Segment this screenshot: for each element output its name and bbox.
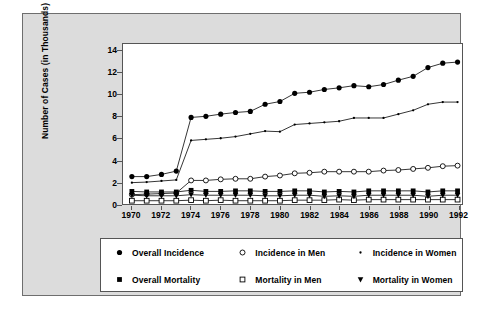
y-tick-label: 0 [95,201,117,209]
chart-page: Number of Cases (in Thousands) 024681012… [0,0,483,309]
data-point-open-square [248,198,253,203]
data-point-filled-circle [425,65,430,70]
legend-item[interactable]: Incidence in Men [233,247,350,258]
data-point-filled-circle [263,102,268,107]
legend-item[interactable]: Overall Incidence [101,247,233,258]
data-point-filled-square [322,190,327,195]
data-point-small-dot [264,130,266,132]
y-axis-tick-labels: 02468101214 [93,43,117,205]
data-point-small-dot [456,101,458,103]
x-axis-tick-labels: 1970197219741976197819801982198419861988… [122,210,463,224]
legend-label: Overall Mortality [132,275,200,285]
data-point-open-circle [425,165,430,170]
data-point-open-square [129,198,134,203]
chart-legend: Overall IncidenceIncidence in MenInciden… [100,238,463,292]
data-point-small-dot [294,123,296,125]
y-tick-label: 10 [95,90,117,98]
legend-label: Incidence in Men [255,248,325,258]
data-point-small-dot [190,139,192,141]
y-tick-label: 4 [95,157,117,165]
data-point-filled-square [144,190,149,195]
data-point-filled-circle [277,99,282,104]
data-point-filled-circle [129,174,134,179]
data-point-filled-square [307,188,312,193]
data-point-filled-square [117,277,122,282]
data-point-open-circle [248,176,253,181]
data-point-filled-circle [396,78,401,83]
data-point-small-dot [160,180,162,182]
legend-label: Incidence in Women [373,248,457,258]
x-tick-label: 1992 [439,210,479,220]
plot-area [122,43,463,205]
data-point-filled-circle [366,84,371,89]
legend-item[interactable]: Incidence in Women [351,247,462,258]
data-point-filled-square [159,190,164,195]
data-point-small-dot [131,181,133,183]
y-tick-label: 6 [95,134,117,142]
data-point-small-dot [205,138,207,140]
data-point-open-circle [411,166,416,171]
data-point-filled-square [381,188,386,193]
data-point-open-circle [455,163,460,168]
data-point-open-square [174,198,179,203]
data-point-filled-square [455,188,460,193]
data-point-open-circle [218,177,223,182]
data-point-open-square [218,198,223,203]
data-point-filled-square [278,189,283,194]
legend-item[interactable]: Mortality in Men [233,274,350,285]
data-point-open-square [240,277,245,282]
data-point-small-dot [353,117,355,119]
filled-square-icon [114,274,125,285]
data-point-open-square [204,198,209,203]
data-point-open-square [278,198,283,203]
data-point-small-dot [279,131,281,133]
y-tick-label: 2 [95,179,117,187]
data-point-filled-circle [322,87,327,92]
data-point-filled-circle [189,115,194,120]
data-point-open-square [159,198,164,203]
data-point-filled-square [292,188,297,193]
data-point-filled-circle [159,172,164,177]
data-point-open-square [263,198,268,203]
filled-circle-icon [114,247,125,258]
data-point-filled-circle [455,60,460,65]
data-point-small-dot [146,181,148,183]
data-point-open-circle [277,173,282,178]
data-point-filled-square [396,188,401,193]
data-point-filled-circle [218,112,223,117]
data-point-small-dot [412,109,414,111]
y-tick-label: 14 [95,46,117,54]
data-point-filled-circle [307,90,312,95]
data-point-open-circle [396,168,401,173]
data-point-down-triangle [357,277,363,282]
legend-item[interactable]: Mortality in Women [351,274,462,285]
data-point-open-circle [203,178,208,183]
data-point-open-square [307,198,312,203]
data-point-open-circle [189,178,194,183]
legend-row: Overall IncidenceIncidence in MenInciden… [101,239,462,266]
data-point-filled-square [174,190,179,195]
legend-row: Overall MortalityMortality in MenMortali… [101,266,462,293]
small-dot-icon [355,247,366,258]
data-point-small-dot [382,117,384,119]
data-point-filled-square [263,189,268,194]
down-triangle-icon [355,274,366,285]
data-point-filled-circle [233,110,238,115]
data-point-open-circle [263,174,268,179]
data-point-small-dot [427,103,429,105]
open-square-icon [237,274,248,285]
data-point-small-dot [234,135,236,137]
legend-item[interactable]: Overall Mortality [101,274,233,285]
data-point-open-circle [366,169,371,174]
chart-series-svg [123,44,462,204]
data-point-open-circle [307,170,312,175]
data-point-small-dot [338,120,340,122]
data-point-filled-square [204,189,209,194]
data-point-small-dot [308,122,310,124]
data-point-filled-circle [248,109,253,114]
y-tick-label: 8 [95,112,117,120]
data-point-filled-square [233,188,238,193]
data-point-small-dot [249,133,251,135]
data-point-filled-square [218,189,223,194]
legend-label: Mortality in Women [373,275,453,285]
